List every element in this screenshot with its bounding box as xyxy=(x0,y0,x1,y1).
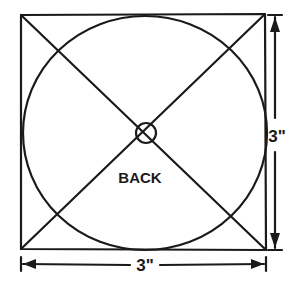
width-dimension: 3" xyxy=(21,256,266,275)
arrowhead-down xyxy=(270,233,280,248)
arrowhead-left xyxy=(23,259,36,269)
back-panel-diagram: BACK 3" 3" xyxy=(0,0,299,288)
back-label: BACK xyxy=(118,169,161,186)
height-label: 3" xyxy=(268,127,286,146)
arrowhead-up xyxy=(270,17,280,32)
height-dimension: 3" xyxy=(268,15,286,250)
center-marker xyxy=(136,123,156,143)
width-label: 3" xyxy=(136,256,154,275)
arrowhead-right xyxy=(251,259,264,269)
